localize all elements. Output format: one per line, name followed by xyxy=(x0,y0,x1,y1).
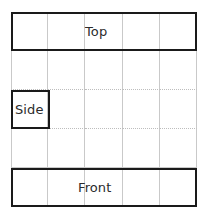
grid-cell-r3-c4 xyxy=(123,90,160,129)
grid-cell-r1-c1 xyxy=(11,12,48,51)
grid-cell-r3-c3 xyxy=(85,90,122,129)
grid-cell-r5-c1 xyxy=(11,168,48,207)
grid-cell-r3-c2 xyxy=(48,90,85,129)
grid-cell-r2-c2 xyxy=(48,51,85,90)
grid-cell-r2-c5 xyxy=(160,51,197,90)
grid-cell-r2-c1 xyxy=(11,51,48,90)
region-label-side: Side xyxy=(15,103,44,116)
region-label-front: Front xyxy=(78,181,111,194)
grid-cell-r1-c5 xyxy=(160,12,197,51)
grid-cell-r5-c5 xyxy=(160,168,197,207)
grid-cell-r3-c5 xyxy=(160,90,197,129)
grid-cell-r2-c4 xyxy=(123,51,160,90)
grid-cell-r4-c4 xyxy=(123,129,160,168)
grid-cell-r4-c2 xyxy=(48,129,85,168)
grid-cell-r1-c4 xyxy=(123,12,160,51)
region-label-top: Top xyxy=(85,25,107,38)
grid-cell-r1-c2 xyxy=(48,12,85,51)
grid-cell-r2-c3 xyxy=(85,51,122,90)
grid-cell-r4-c3 xyxy=(85,129,122,168)
grid-cell-r5-c4 xyxy=(123,168,160,207)
grid-cell-r4-c1 xyxy=(11,129,48,168)
orthographic-grid-figure: Top Side Front xyxy=(0,0,205,212)
grid-cell-r4-c5 xyxy=(160,129,197,168)
